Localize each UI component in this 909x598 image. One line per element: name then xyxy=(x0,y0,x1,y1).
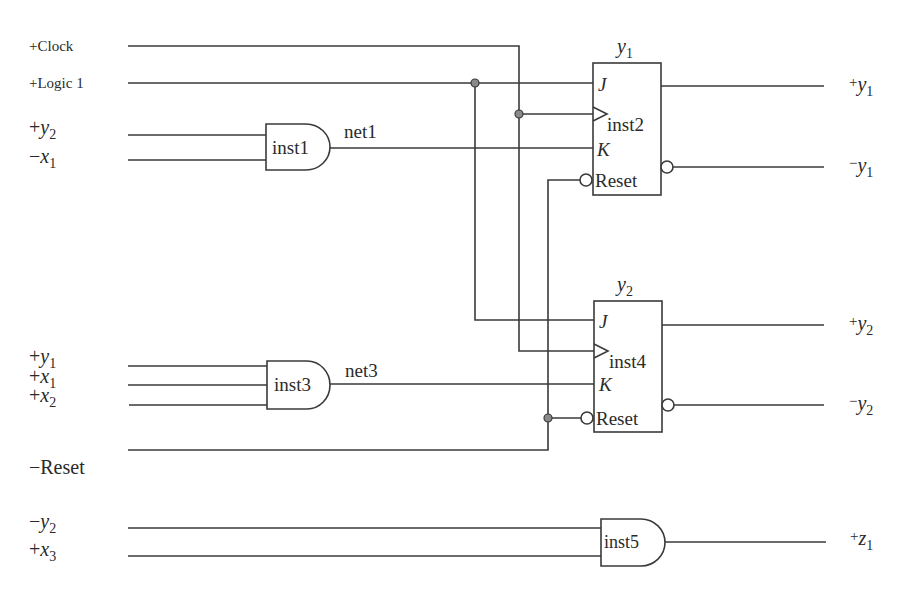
junction-logic1 xyxy=(471,79,479,87)
flipflop-title-y1: y1 xyxy=(617,36,633,61)
output-label-y1-neg: −y1 xyxy=(849,155,873,180)
sign: + xyxy=(29,345,40,367)
var: x xyxy=(40,538,49,560)
pin-j-inst4: J xyxy=(599,312,607,331)
input-label-reset-neg: −Reset xyxy=(29,457,85,477)
pin-reset-inst4: Reset xyxy=(596,409,638,428)
output-label-z1-pos: +z1 xyxy=(850,528,873,553)
subscript: 2 xyxy=(866,403,873,418)
gate-label-inst3: inst3 xyxy=(274,375,311,394)
input-label-logic1: +Logic 1 xyxy=(29,76,84,91)
subscript: 1 xyxy=(866,84,873,99)
junction-clock xyxy=(515,110,523,118)
input-label-y2-pos: +y2 xyxy=(29,117,56,142)
subscript: 3 xyxy=(49,549,56,564)
sign: − xyxy=(29,510,40,532)
subscript: 2 xyxy=(626,284,633,299)
circuit-schematic xyxy=(0,0,909,598)
output-label-y1-pos: +y1 xyxy=(849,74,873,99)
reset-wire xyxy=(128,180,580,450)
subscript: 2 xyxy=(49,395,56,410)
var: y xyxy=(40,345,49,367)
subscript: 2 xyxy=(866,323,873,338)
flipflop-title-y2: y2 xyxy=(617,274,633,299)
input-label-y2-neg: −y2 xyxy=(29,511,56,536)
flipflop-label-inst4: inst4 xyxy=(609,352,646,371)
output-label-y2-pos: +y2 xyxy=(849,313,873,338)
sign: + xyxy=(29,384,40,406)
sign: + xyxy=(29,116,40,138)
subscript: 1 xyxy=(866,165,873,180)
gate-label-inst5: inst5 xyxy=(604,533,639,551)
flipflop-label-inst2: inst2 xyxy=(607,115,644,134)
output-label-y2-neg: −y2 xyxy=(849,393,873,418)
input-label-x2-pos: +x2 xyxy=(29,385,56,410)
pin-reset-inst2: Reset xyxy=(595,171,637,190)
input-label-x1-neg: −x1 xyxy=(29,146,56,171)
net-label-net3: net3 xyxy=(345,361,378,380)
qbar-bubble-inst4 xyxy=(662,399,674,411)
reset-bubble-inst4 xyxy=(581,412,593,424)
subscript: 1 xyxy=(866,538,873,553)
logic1-branch-inst4-j xyxy=(475,83,594,320)
reset-bubble-inst2 xyxy=(580,174,592,186)
var: x xyxy=(40,384,49,406)
junction-reset xyxy=(544,414,552,422)
var: y xyxy=(617,273,626,295)
input-label-x3-pos: +x3 xyxy=(29,539,56,564)
var: x xyxy=(40,145,49,167)
pin-k-inst4: K xyxy=(599,375,612,394)
subscript: 1 xyxy=(49,156,56,171)
var: y xyxy=(40,116,49,138)
sign: − xyxy=(29,145,40,167)
subscript: 2 xyxy=(49,127,56,142)
sign: + xyxy=(29,538,40,560)
subscript: 2 xyxy=(49,521,56,536)
qbar-bubble-inst2 xyxy=(661,161,673,173)
net-label-net1: net1 xyxy=(344,122,377,141)
gate-label-inst1: inst1 xyxy=(272,138,309,157)
var: y xyxy=(40,510,49,532)
pin-k-inst2: K xyxy=(597,140,610,159)
pin-j-inst2: J xyxy=(598,75,606,94)
clock-wire xyxy=(128,46,594,351)
input-label-clock: +Clock xyxy=(29,39,73,54)
subscript: 1 xyxy=(626,46,633,61)
var: y xyxy=(617,35,626,57)
